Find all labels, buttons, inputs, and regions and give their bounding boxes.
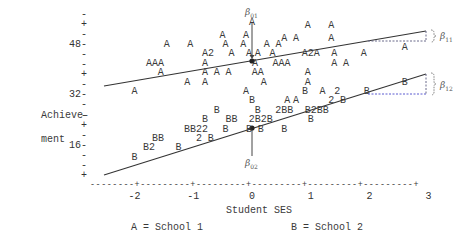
data-point-school-1: A bbox=[328, 34, 334, 44]
data-point-school-1: A bbox=[131, 87, 137, 97]
data-point-school-2: B bbox=[402, 78, 408, 88]
x-tick-label: -1 bbox=[187, 192, 199, 202]
x-axis-line: --------+---------+---------+---------+-… bbox=[90, 180, 419, 190]
legend-school-1: A = School 1 bbox=[131, 223, 203, 233]
data-point-school-1: A bbox=[293, 34, 299, 44]
data-point-school-2: B bbox=[302, 87, 308, 97]
data-point-school-2: B bbox=[131, 153, 137, 163]
beta-01-label: β01 bbox=[245, 7, 258, 19]
data-point-school-1: A bbox=[214, 68, 220, 78]
x-axis-label: Student SES bbox=[226, 206, 292, 216]
data-point-school-1: A bbox=[228, 49, 234, 59]
multilevel-scatter-chart: -+-48---+-32---+-16---+ Achieve- ment AA… bbox=[0, 0, 467, 240]
data-point-school-1: A bbox=[275, 40, 281, 50]
data-point-school-1: A bbox=[249, 18, 255, 28]
data-point-school-1: A bbox=[202, 78, 208, 88]
legend-school-2: B = School 2 bbox=[291, 223, 363, 233]
beta-12-label: β12 bbox=[440, 80, 453, 92]
beta-11-label: β11 bbox=[440, 31, 453, 43]
data-point-school-2: 2BB bbox=[275, 106, 293, 116]
x-tick-label: -2 bbox=[128, 192, 140, 202]
data-point-school-1: A bbox=[158, 68, 164, 78]
x-tick-label: 3 bbox=[425, 192, 431, 202]
data-point-school-1: A bbox=[281, 34, 287, 44]
data-point-school-2: B bbox=[214, 106, 220, 116]
data-point-school-1: A bbox=[225, 68, 231, 78]
data-point-school-1: A2A bbox=[302, 49, 320, 59]
data-point-school-2: B bbox=[258, 125, 264, 135]
data-point-school-2: B bbox=[364, 87, 370, 97]
x-tick-label: 2 bbox=[367, 192, 373, 202]
data-point-school-1: A bbox=[184, 78, 190, 88]
data-point-school-1: A bbox=[331, 59, 337, 69]
data-point-school-1: A bbox=[402, 43, 408, 53]
data-point-school-2: B bbox=[246, 125, 252, 135]
data-point-school-1: A bbox=[320, 87, 326, 97]
data-point-school-2: B bbox=[175, 143, 181, 153]
beta-02-label: β02 bbox=[245, 158, 258, 170]
data-point-school-1: AAA bbox=[272, 59, 290, 69]
data-point-school-1: A bbox=[343, 59, 349, 69]
data-point-school-1: A bbox=[328, 21, 334, 31]
brace-b11 bbox=[431, 30, 436, 42]
data-point-school-2: B2 bbox=[143, 143, 155, 153]
data-point-school-2: B bbox=[281, 125, 287, 135]
x-tick-label: 1 bbox=[308, 192, 314, 202]
data-point-school-2: B bbox=[208, 134, 214, 144]
data-point-school-2: B bbox=[340, 96, 346, 106]
data-point-school-1: A bbox=[361, 49, 367, 59]
data-point-school-2: 2 bbox=[328, 96, 334, 106]
brace-b12 bbox=[431, 73, 436, 95]
data-point-school-1: A bbox=[187, 40, 193, 50]
data-point-school-2: B bbox=[308, 115, 314, 125]
x-tick-label: 0 bbox=[249, 192, 255, 202]
data-point-school-1: A bbox=[293, 96, 299, 106]
data-point-school-1: A bbox=[261, 78, 267, 88]
data-point-school-2: 2 bbox=[196, 134, 202, 144]
data-point-school-1: A bbox=[305, 21, 311, 31]
data-point-school-1: A bbox=[164, 40, 170, 50]
data-point-school-2: B bbox=[223, 125, 229, 135]
